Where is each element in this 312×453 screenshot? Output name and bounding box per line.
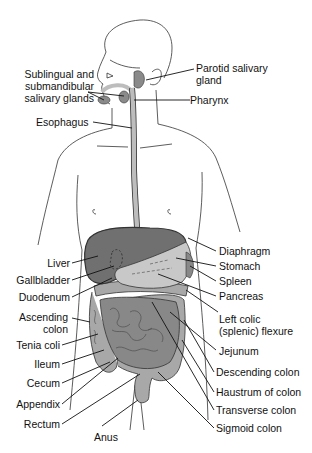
- label-duodenum: Duodenum: [0, 291, 70, 303]
- leader-diaphragm: [188, 238, 216, 251]
- label-pharynx: Pharynx: [190, 94, 229, 106]
- label-parotid: Parotid salivary gland: [196, 62, 268, 86]
- label-esophagus: Esophagus: [36, 116, 89, 128]
- label-line: Ascending: [0, 311, 68, 323]
- label-line: Parotid salivary: [196, 62, 268, 74]
- neck-right: [156, 90, 158, 124]
- label-liver: Liver: [0, 257, 70, 269]
- label-sublingual-submandibular: Sublingual and submandibular salivary gl…: [8, 68, 94, 104]
- label-transverse-colon: Transverse colon: [216, 404, 296, 416]
- label-tenia-coli: Tenia coli: [0, 339, 60, 351]
- leader-sigmoid-colon: [158, 372, 214, 428]
- spleen: [186, 252, 193, 278]
- eye: [107, 73, 113, 78]
- label-line: Left colic: [219, 313, 293, 325]
- label-sigmoid-colon: Sigmoid colon: [216, 422, 282, 434]
- leader-ascending-colon: [72, 318, 90, 322]
- submandibular-gland: [119, 91, 129, 103]
- label-rectum: Rectum: [0, 418, 60, 430]
- right-torso: [196, 172, 208, 420]
- label-line: Sublingual and: [8, 68, 94, 80]
- head-outline: [105, 20, 172, 78]
- label-pancreas: Pancreas: [219, 290, 263, 302]
- label-line: gland: [196, 74, 268, 86]
- leader-appendix: [62, 358, 118, 404]
- leader-descending-colon: [184, 320, 214, 372]
- label-haustrum-of-colon: Haustrum of colon: [216, 386, 301, 398]
- parotid-gland: [134, 71, 144, 88]
- label-ascending-colon: Ascending colon: [0, 311, 68, 335]
- label-diaphragm: Diaphragm: [219, 245, 270, 257]
- label-line: salivary glands: [8, 92, 94, 104]
- label-jejunum: Jejunum: [219, 345, 259, 357]
- label-cecum: Cecum: [0, 377, 60, 389]
- leader-rectum: [62, 374, 140, 424]
- left-clavicle: [97, 146, 128, 147]
- label-gallbladder: Gallbladder: [0, 274, 70, 286]
- hairline: [110, 60, 140, 68]
- left-shoulder-arm: [38, 128, 112, 245]
- oral-cavity: [102, 85, 132, 92]
- leader-esophagus: [93, 122, 132, 128]
- right-shoulder-arm: [158, 124, 240, 232]
- leader-spleen: [190, 266, 216, 281]
- right-clavicle: [140, 144, 172, 148]
- esophagus: [132, 88, 138, 244]
- label-line: submandibular: [8, 80, 94, 92]
- label-appendix: Appendix: [0, 398, 60, 410]
- leader-haustrum: [182, 340, 214, 392]
- label-line: (splenic) flexure: [219, 325, 293, 337]
- label-spleen: Spleen: [219, 275, 252, 287]
- leader-left-colic: [186, 290, 218, 312]
- leader-anus: [102, 400, 138, 426]
- left-nipple: [93, 210, 96, 214]
- label-stomach: Stomach: [219, 260, 260, 272]
- leader-cecum: [62, 362, 110, 383]
- label-descending-colon: Descending colon: [216, 366, 299, 378]
- label-left-colic-flexure: Left colic (splenic) flexure: [219, 313, 293, 337]
- salivary-glands: [98, 71, 144, 104]
- label-line: colon: [0, 323, 68, 335]
- right-nipple: [168, 210, 171, 214]
- label-ileum: Ileum: [0, 358, 60, 370]
- label-anus: Anus: [94, 431, 118, 443]
